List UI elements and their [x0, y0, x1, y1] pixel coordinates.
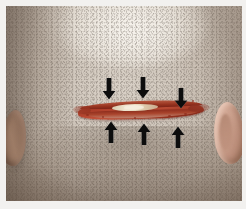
- blood-speck: [102, 116, 104, 118]
- ear-right-concha: [219, 114, 232, 150]
- blood-speck: [184, 113, 187, 115]
- blood-speck: [134, 117, 136, 119]
- shading-bottom: [6, 131, 242, 201]
- wound-tail-right: [188, 103, 211, 113]
- blood-speck: [86, 114, 89, 116]
- wound-exposed-tissue: [124, 105, 144, 110]
- blood-speck: [192, 100, 194, 102]
- blood-speck: [168, 115, 171, 117]
- photo-frame: [0, 0, 246, 209]
- clinical-photograph: [6, 6, 242, 201]
